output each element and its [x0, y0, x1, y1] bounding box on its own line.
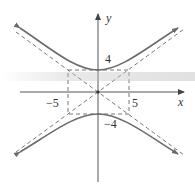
- tick-label-y-neg: −4: [104, 117, 117, 131]
- tick-label-x-neg: −5: [46, 96, 59, 110]
- y-axis-label: y: [105, 11, 112, 25]
- origin-point: [96, 90, 99, 93]
- x-axis-label: x: [177, 95, 184, 109]
- tick-label-x-pos: 5: [132, 96, 138, 110]
- tick-label-y-pos: 4: [105, 52, 111, 66]
- hyperbola-diagram: y x 4 −4 −5 5: [0, 0, 195, 186]
- hyperbola-lower-branch: [20, 114, 178, 154]
- hyperbola-upper-branch: [20, 28, 178, 70]
- asymptote-positive-slope: [16, 29, 184, 152]
- asymptote-negative-slope: [16, 32, 184, 155]
